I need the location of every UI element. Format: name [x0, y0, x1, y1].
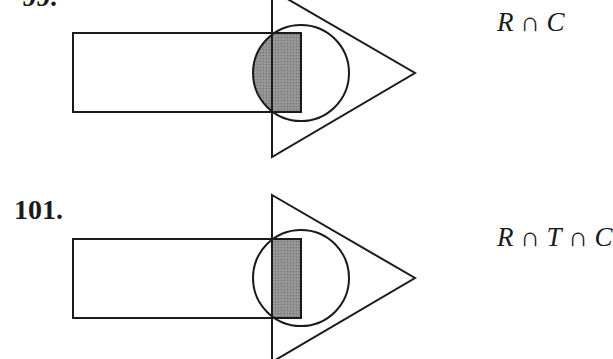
rectangle-set-r	[73, 239, 301, 318]
